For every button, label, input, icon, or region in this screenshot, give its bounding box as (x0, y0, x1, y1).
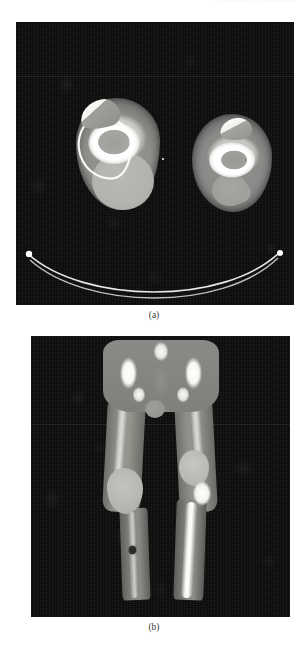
page-header-ghost-text: Case Reports in Orthopedics (0, 0, 308, 5)
ct-table-support (24, 248, 286, 305)
figure-panel-b[interactable] (31, 336, 290, 617)
figure-page: Case Reports in Orthopedics (a) (0, 0, 308, 658)
panel-b-caption: (b) (0, 622, 308, 632)
coronal-body-reconstruction (91, 340, 231, 602)
left-tibial-focal-lesion (129, 546, 136, 554)
scanline-artifact-a (16, 76, 294, 77)
panel-a-caption: (a) (0, 310, 308, 320)
figure-panel-a[interactable] (16, 22, 294, 305)
right-knee-bone (191, 480, 213, 510)
right-femoral-condyle (206, 140, 258, 180)
bladder (145, 400, 165, 418)
calcification-speck (162, 158, 164, 160)
